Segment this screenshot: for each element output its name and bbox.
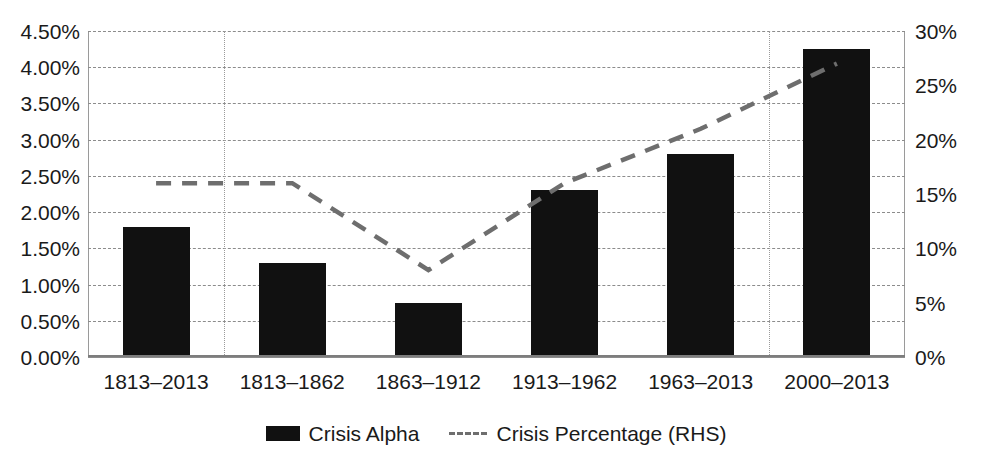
left-axis-tick-3.00%: 3.00% bbox=[20, 130, 80, 151]
left-axis-tick-0.50%: 0.50% bbox=[20, 311, 80, 332]
right-axis-tick-0%: 0% bbox=[915, 347, 945, 368]
left-axis-tick-4.50%: 4.50% bbox=[20, 21, 80, 42]
legend-item-crisis-percentage[interactable]: Crisis Percentage (RHS) bbox=[449, 423, 726, 444]
right-axis-tick-30%: 30% bbox=[915, 21, 957, 42]
left-value-axis: 0.00%0.50%1.00%1.50%2.00%2.50%3.00%3.50%… bbox=[0, 0, 80, 466]
category-label-1963–2013: 1963–2013 bbox=[648, 371, 753, 393]
legend-item-crisis-alpha[interactable]: Crisis Alpha bbox=[266, 423, 420, 444]
left-axis-tick-2.00%: 2.00% bbox=[20, 202, 80, 223]
left-axis-tick-4.00%: 4.00% bbox=[20, 57, 80, 78]
category-label-2000–2013: 2000–2013 bbox=[784, 371, 889, 393]
legend-label: Crisis Alpha bbox=[309, 423, 420, 444]
category-label-1863–1912: 1863–1912 bbox=[376, 371, 481, 393]
legend-bar-swatch-icon bbox=[266, 426, 300, 441]
category-label-1813–1862: 1813–1862 bbox=[240, 371, 345, 393]
x-axis-baseline bbox=[88, 355, 905, 357]
right-value-axis: 0%5%10%15%20%25%30% bbox=[915, 0, 992, 466]
left-axis-tick-2.50%: 2.50% bbox=[20, 166, 80, 187]
left-axis-tick-1.00%: 1.00% bbox=[20, 275, 80, 296]
right-axis-tick-10%: 10% bbox=[915, 238, 957, 259]
crisis-percentage-line bbox=[156, 64, 837, 270]
right-axis-tick-15%: 15% bbox=[915, 184, 957, 205]
legend-label: Crisis Percentage (RHS) bbox=[496, 423, 726, 444]
plot-area bbox=[88, 31, 905, 357]
right-axis-tick-5%: 5% bbox=[915, 293, 945, 314]
chart-legend: Crisis AlphaCrisis Percentage (RHS) bbox=[0, 423, 992, 444]
gridline-0.00% bbox=[88, 357, 905, 358]
left-axis-tick-1.50%: 1.50% bbox=[20, 238, 80, 259]
left-axis-tick-3.50%: 3.50% bbox=[20, 93, 80, 114]
right-axis-tick-20%: 20% bbox=[915, 130, 957, 151]
line-series-crisis-percentage bbox=[88, 31, 905, 357]
left-axis-tick-0.00%: 0.00% bbox=[20, 347, 80, 368]
crisis-alpha-chart: 0.00%0.50%1.00%1.50%2.00%2.50%3.00%3.50%… bbox=[0, 0, 992, 466]
legend-dashed-line-icon bbox=[449, 432, 487, 435]
category-label-1813–2013: 1813–2013 bbox=[104, 371, 209, 393]
right-axis-tick-25%: 25% bbox=[915, 75, 957, 96]
category-label-1913–1962: 1913–1962 bbox=[512, 371, 617, 393]
